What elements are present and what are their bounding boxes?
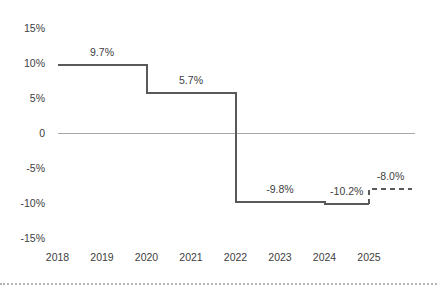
x-tick-label: 2025	[357, 251, 381, 263]
y-tick-label: 15%	[24, 22, 45, 34]
data-label: 9.7%	[90, 46, 114, 58]
projected-step-dashed-path	[369, 189, 412, 204]
data-label: -8.0%	[377, 170, 404, 182]
y-tick-label: -10%	[20, 197, 45, 209]
y-tick-label: -15%	[20, 232, 45, 244]
y-tick-label: 0	[39, 127, 45, 139]
x-tick-label: 2018	[46, 251, 70, 263]
y-tick-label: 5%	[30, 92, 45, 104]
x-tick-label: 2021	[179, 251, 203, 263]
step-chart-canvas: 15%10%5%0-5%-10%-15%20182019202020212022…	[0, 0, 437, 289]
step-chart: 15%10%5%0-5%-10%-15%20182019202020212022…	[0, 0, 437, 289]
y-tick-label: 10%	[24, 57, 45, 69]
x-tick-label: 2019	[90, 251, 114, 263]
data-label: 5.7%	[179, 74, 203, 86]
data-label: -9.8%	[266, 183, 293, 195]
x-tick-label: 2022	[224, 251, 248, 263]
y-tick-label: -5%	[26, 162, 45, 174]
x-tick-label: 2024	[313, 251, 337, 263]
x-tick-label: 2020	[135, 251, 159, 263]
step-line-path	[58, 65, 370, 204]
x-tick-label: 2023	[268, 251, 292, 263]
dotted-separator	[0, 283, 437, 285]
data-label: -10.2%	[330, 185, 363, 197]
